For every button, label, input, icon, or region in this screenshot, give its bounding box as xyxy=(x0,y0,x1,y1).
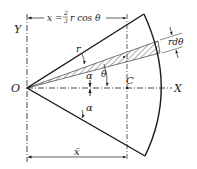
label-top-dim-num: 2 xyxy=(63,9,68,16)
label-top-dim-x: x = xyxy=(47,13,62,23)
centroid-point xyxy=(126,87,129,90)
label-y-axis: Y xyxy=(14,23,23,36)
label-alpha-upper: α xyxy=(86,70,93,81)
strip-width-tick-top xyxy=(170,27,172,35)
label-strip-width: rdθ xyxy=(168,37,184,47)
label-top-dim-den: 3 xyxy=(64,17,68,24)
r-arc-arrow xyxy=(82,54,84,64)
strip-width-tick-bottom xyxy=(176,50,178,58)
label-alpha-lower: α xyxy=(86,102,93,113)
strip-ext-bottom xyxy=(162,47,182,53)
differential-strip xyxy=(27,41,160,88)
diagram-canvas: Y O X C r rdθ θ α α x = 2 3 r cos θ x̄ xyxy=(0,0,197,169)
label-origin: O xyxy=(11,82,20,95)
label-bottom-dim: x̄ xyxy=(74,146,80,157)
sector-arc xyxy=(144,14,161,156)
alpha-lower-arc xyxy=(82,110,83,118)
label-x-axis: X xyxy=(173,82,183,95)
label-theta: θ xyxy=(101,69,107,79)
label-centroid: C xyxy=(126,75,134,86)
label-top-dim-rest: r cos θ xyxy=(70,13,101,23)
label-radius: r xyxy=(76,43,82,54)
strip-centroid-point xyxy=(123,56,125,58)
circular-sector-centroid-diagram: Y O X C r rdθ θ α α x = 2 3 r cos θ x̄ xyxy=(0,0,197,169)
